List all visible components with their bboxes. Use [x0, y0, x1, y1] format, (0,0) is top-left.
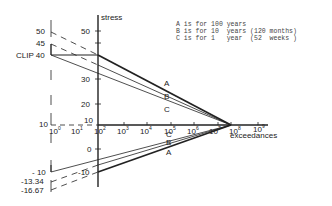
legend: A is for 100 years B is for 10 years (12…: [176, 21, 297, 42]
svg-text:7: 7: [218, 125, 221, 131]
y-tick-neg10: -10: [78, 168, 90, 177]
label-b-upper: B: [164, 92, 169, 101]
left-tick-10: 10: [39, 120, 48, 129]
stress-exceedance-diagram: stress exceedances 50 30 20 10 0 -10 50 …: [0, 0, 332, 206]
label-a-upper: A: [164, 79, 170, 88]
left-tick-neg13: -13.34: [21, 177, 44, 186]
label-a-lower: A: [166, 148, 172, 157]
left-tick-neg10: - 10: [32, 168, 46, 177]
svg-text:9: 9: [262, 123, 265, 129]
y-tick-30: 30: [81, 75, 90, 84]
y-tick-0: 0: [87, 145, 92, 154]
label-b-lower: B: [166, 138, 171, 147]
svg-text:5: 5: [173, 125, 176, 131]
svg-text:3: 3: [126, 125, 129, 131]
left-tick-neg16: -16.67: [21, 186, 44, 195]
y-tick-50: 50: [81, 27, 90, 36]
legend-b: B is for 10 years (120 months): [176, 28, 297, 35]
y-axis-label: stress: [101, 13, 122, 22]
legend-a: A is for 100 years: [176, 21, 246, 28]
line-c-upper: [51, 55, 231, 125]
svg-text:8: 8: [238, 125, 241, 131]
legend-c: C is for 1 year (52 weeks ): [176, 35, 297, 42]
y-tick-20: 20: [81, 100, 90, 109]
svg-text:4: 4: [149, 125, 152, 131]
y-tick-10: 10: [84, 116, 93, 125]
label-c-upper: C: [164, 105, 170, 114]
svg-text:2: 2: [103, 125, 106, 131]
line-a-upper: [98, 55, 231, 125]
svg-text:0: 0: [58, 125, 61, 131]
left-tick-50: 50: [36, 27, 45, 36]
svg-text:6: 6: [196, 125, 199, 131]
left-tick-clip: CLIP 40: [16, 51, 45, 60]
svg-text:1: 1: [80, 125, 83, 131]
left-tick-45: 45: [36, 39, 45, 48]
